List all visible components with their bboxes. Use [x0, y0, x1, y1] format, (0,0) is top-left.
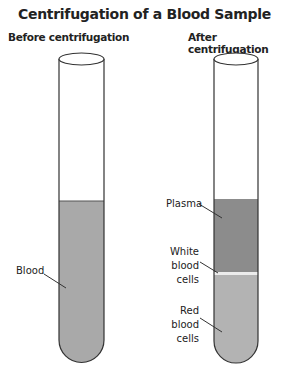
after-tube: [214, 53, 258, 363]
tubes-illustration: [0, 0, 289, 384]
blood-label: Blood: [16, 264, 44, 278]
white-cells-label: White blood cells: [170, 245, 199, 287]
before-tube: [59, 53, 104, 363]
plasma-label: Plasma: [166, 197, 202, 211]
red-cells-label: Red blood cells: [171, 304, 199, 346]
